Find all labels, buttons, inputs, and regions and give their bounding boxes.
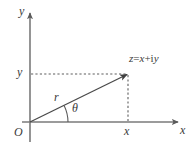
radius-label: r [54,91,59,103]
x-axis-label: x [180,124,185,136]
point-label-imag-part: y [154,52,159,64]
origin-label: O [14,126,23,138]
angle-label: θ [72,102,78,114]
x-tick-label: x [124,125,129,137]
argand-diagram-figure: y x O y x r θ z=x+iy [0,0,192,151]
y-axis-label: y [19,5,24,17]
point-label: z=x+iy [129,53,159,64]
angle-arc [64,105,68,122]
radius-vector-line [30,75,127,123]
diagram-canvas [0,0,192,151]
y-tick-label: y [17,66,22,78]
